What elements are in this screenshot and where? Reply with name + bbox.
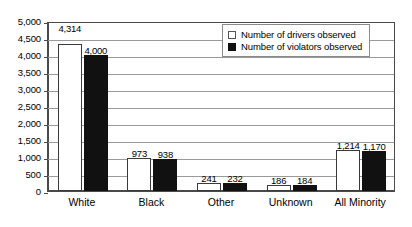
bar-value-label: 232 [227,174,242,184]
bar-value-label: 241 [201,174,216,184]
legend-swatch-violators-icon [228,43,236,51]
y-axis-tick [44,40,48,41]
bar [84,55,108,191]
bar [127,158,151,191]
chart-legend: Number of drivers observed Number of vio… [222,24,370,57]
y-axis-tick [44,57,48,58]
y-axis-tick-label: 2,500 [0,102,41,112]
y-axis-tick-label: 4,000 [0,51,41,61]
y-axis-tick-label: 3,500 [0,68,41,78]
y-axis-tick-label: 5,000 [0,17,41,27]
bar-value-label: 973 [132,149,147,159]
y-axis-tick-label: 500 [0,170,41,180]
y-axis-tick [44,193,48,194]
x-axis-category-label: White [68,196,95,208]
y-axis-tick [44,108,48,109]
x-axis-category-labels: WhiteBlackOtherUnknownAll Minority [47,196,395,216]
bar [197,183,221,191]
x-axis-category-label: All Minority [335,196,386,208]
x-axis-category-label: Other [208,196,234,208]
y-axis-tick [44,159,48,160]
bar-value-label: 1,170 [363,142,386,152]
bar-value-label: 186 [271,176,286,186]
y-axis-tick-label: 4,500 [0,34,41,44]
bar [153,159,177,191]
x-axis-category-label: Unknown [269,196,313,208]
y-axis-tick-label: 1,000 [0,153,41,163]
y-axis-tick-label: 1,500 [0,136,41,146]
y-axis-tick [44,23,48,24]
legend-label-violators: Number of violators observed [241,42,362,52]
bar-value-label: 4,314 [58,24,81,34]
x-axis-category-label: Black [139,196,165,208]
y-axis-tick [44,125,48,126]
legend-item-drivers: Number of drivers observed [228,29,362,40]
bar-value-label: 184 [297,176,312,186]
bar-value-label: 4,000 [84,46,107,56]
bar [362,151,386,191]
bar [58,44,82,191]
bar-value-label: 938 [158,150,173,160]
y-axis-tick [44,91,48,92]
y-axis-tick-labels: 05001,0001,5002,0002,5003,0003,5004,0004… [0,0,41,227]
y-axis-tick-label: 2,000 [0,119,41,129]
y-axis-tick [44,142,48,143]
bar-value-label: 1,214 [337,141,360,151]
legend-item-violators: Number of violators observed [228,41,362,52]
y-axis-tick [44,176,48,177]
bar-chart: 05001,0001,5002,0002,5003,0003,5004,0004… [0,0,412,227]
y-axis-tick-label: 0 [0,187,41,197]
bar [223,183,247,191]
legend-swatch-drivers-icon [228,31,236,39]
y-axis-line [48,23,49,191]
y-axis-tick-label: 3,000 [0,85,41,95]
bar [336,150,360,191]
legend-label-drivers: Number of drivers observed [241,30,356,40]
y-axis-tick [44,74,48,75]
